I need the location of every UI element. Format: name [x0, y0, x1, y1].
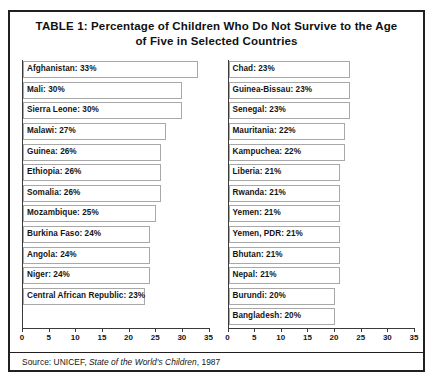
- bar-row: Chad: 23%: [229, 60, 415, 81]
- title-line-1: TABLE 1: Percentage of Children Who Do N…: [26, 19, 407, 34]
- axis-tick: [209, 328, 210, 332]
- bar-label: Burundi: 20%: [233, 290, 286, 301]
- bar-label: Bangladesh: 20%: [233, 310, 302, 321]
- bar-row: Bangladesh: 20%: [229, 307, 415, 328]
- axis-tick: [361, 328, 362, 332]
- bar-row: Mozambique: 25%: [23, 204, 209, 225]
- axis-tick: [254, 328, 255, 332]
- axis-tick: [49, 328, 50, 332]
- axis-tick: [129, 328, 130, 332]
- bar-label: Burkina Faso: 24%: [27, 228, 101, 239]
- bar-row: Yemen: 21%: [229, 204, 415, 225]
- axis-tick-label: 5: [46, 333, 50, 342]
- bar-row: Bhutan: 21%: [229, 245, 415, 266]
- bar-row: Yemen, PDR: 21%: [229, 225, 415, 246]
- bar-row: Kampuchea: 22%: [229, 142, 415, 163]
- bar-label: Mozambique: 25%: [27, 207, 99, 218]
- axis-tick-label: 25: [151, 333, 160, 342]
- bar-row: Liberia: 21%: [229, 163, 415, 184]
- bar-row: Sierra Leone: 30%: [23, 101, 209, 122]
- bar-row: Angola: 24%: [23, 245, 209, 266]
- bar-row: Afghanistan: 33%: [23, 60, 209, 81]
- bar-row: Burundi: 20%: [229, 287, 415, 308]
- bar-label: Sierra Leone: 30%: [27, 104, 99, 115]
- chart-panel-left: Afghanistan: 33%Mali: 30%Sierra Leone: 3…: [10, 60, 217, 352]
- axis-tick: [281, 328, 282, 332]
- bar-label: Guinea: 26%: [27, 146, 77, 157]
- bar-label: Yemen, PDR: 21%: [233, 228, 303, 239]
- bar-label: Kampuchea: 22%: [233, 146, 302, 157]
- bar-label: Guinea-Bissau: 23%: [233, 84, 313, 95]
- x-axis-left: 05101520253035: [22, 328, 209, 350]
- axis-tick: [102, 328, 103, 332]
- axis-tick: [387, 328, 388, 332]
- axis-tick-label: 35: [410, 333, 419, 342]
- bar-label: Yemen: 21%: [233, 207, 281, 218]
- bar-row: Burkina Faso: 24%: [23, 225, 209, 246]
- axis-tick-label: 15: [97, 333, 106, 342]
- source-prefix: Source: UNICEF,: [22, 357, 89, 367]
- axis-tick: [182, 328, 183, 332]
- axis-tick-label: 20: [124, 333, 133, 342]
- bar-label: Liberia: 21%: [233, 166, 282, 177]
- axis-tick-label: 20: [330, 333, 339, 342]
- bar-plot-right: Chad: 23%Guinea-Bissau: 23%Senegal: 23%M…: [228, 60, 415, 328]
- axis-tick-label: 15: [303, 333, 312, 342]
- axis-tick: [75, 328, 76, 332]
- bar-label: Mauritania: 22%: [233, 125, 296, 136]
- page-title: TABLE 1: Percentage of Children Who Do N…: [10, 12, 423, 49]
- axis-tick-label: 10: [71, 333, 80, 342]
- bar-row: Niger: 24%: [23, 266, 209, 287]
- axis-line: [22, 328, 209, 329]
- axis-tick-label: 10: [276, 333, 285, 342]
- bar-label: Chad: 23%: [233, 63, 275, 74]
- bar-row: Guinea: 26%: [23, 142, 209, 163]
- bar-label: Rwanda: 21%: [233, 187, 286, 198]
- axis-tick-label: 5: [252, 333, 256, 342]
- bar-label: Angola: 24%: [27, 249, 77, 260]
- bar-row: Senegal: 23%: [229, 101, 415, 122]
- bar-label: Afghanistan: 33%: [27, 63, 97, 74]
- source-note: Source: UNICEF, State of the World's Chi…: [22, 357, 220, 367]
- bar-row: Mali: 30%: [23, 81, 209, 102]
- bar-plot-left: Afghanistan: 33%Mali: 30%Sierra Leone: 3…: [22, 60, 209, 328]
- bar-row: Ethiopia: 26%: [23, 163, 209, 184]
- axis-tick: [334, 328, 335, 332]
- axis-tick: [22, 328, 23, 332]
- bar-row: Mauritania: 22%: [229, 122, 415, 143]
- axis-tick-label: 30: [383, 333, 392, 342]
- bar-label: Ethiopia: 26%: [27, 166, 81, 177]
- bar-label: Nepal: 21%: [233, 269, 277, 280]
- chart-panel-right: Chad: 23%Guinea-Bissau: 23%Senegal: 23%M…: [217, 60, 424, 352]
- table-frame: TABLE 1: Percentage of Children Who Do N…: [8, 10, 425, 372]
- bar-label: Malawi: 27%: [27, 125, 76, 136]
- bar-label: Niger: 24%: [27, 269, 70, 280]
- bar-row: Nepal: 21%: [229, 266, 415, 287]
- x-axis-right: 05101520253035: [228, 328, 415, 350]
- bar-row: Malawi: 27%: [23, 122, 209, 143]
- bar-row: Central African Republic: 23%: [23, 287, 209, 308]
- axis-tick-label: 0: [225, 333, 229, 342]
- axis-tick-label: 25: [356, 333, 365, 342]
- bar-label: Bhutan: 21%: [233, 249, 283, 260]
- bar-row: Rwanda: 21%: [229, 184, 415, 205]
- bar-label: Central African Republic: 23%: [27, 290, 145, 301]
- charts-area: Afghanistan: 33%Mali: 30%Sierra Leone: 3…: [10, 60, 423, 352]
- axis-tick-label: 35: [204, 333, 213, 342]
- axis-tick-label: 30: [177, 333, 186, 342]
- axis-tick: [228, 328, 229, 332]
- axis-tick: [307, 328, 308, 332]
- axis-tick-label: 0: [20, 333, 24, 342]
- bar-label: Senegal: 23%: [233, 104, 286, 115]
- source-suffix: , 1987: [197, 357, 221, 367]
- bar-row: Somalia: 26%: [23, 184, 209, 205]
- source-divider: [10, 352, 423, 353]
- axis-tick: [414, 328, 415, 332]
- source-work-title: State of the World's Children: [89, 357, 197, 367]
- title-line-2: of Five in Selected Countries: [26, 34, 407, 49]
- bar-label: Somalia: 26%: [27, 187, 80, 198]
- axis-tick: [155, 328, 156, 332]
- axis-line: [228, 328, 415, 329]
- bar-label: Mali: 30%: [27, 84, 65, 95]
- bar-row: Guinea-Bissau: 23%: [229, 81, 415, 102]
